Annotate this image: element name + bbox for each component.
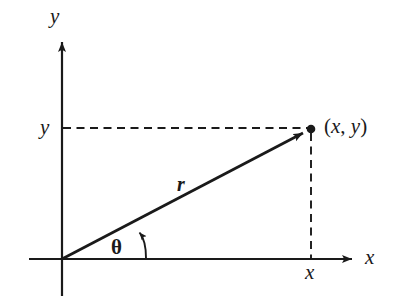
polar-coordinates-figure: y x y x r θ (x, y) <box>0 0 395 305</box>
theta-angle-label: θ <box>111 237 122 258</box>
point-separator: , <box>340 114 351 138</box>
diagram-canvas <box>0 0 395 305</box>
radius-label: r <box>177 174 185 194</box>
point-close-paren: ) <box>360 114 367 138</box>
x-coordinate-tick-label: x <box>305 262 314 283</box>
point-coordinates-label: (x, y) <box>324 116 367 137</box>
point-marker-dot <box>307 125 316 134</box>
radius-vector-line <box>62 133 303 259</box>
point-y-symbol: y <box>351 114 360 138</box>
x-axis-label: x <box>365 247 374 268</box>
theta-arc <box>140 233 147 259</box>
point-open-paren: ( <box>324 114 331 138</box>
point-x-symbol: x <box>331 114 340 138</box>
y-axis-label: y <box>50 6 59 27</box>
y-coordinate-tick-label: y <box>40 117 49 138</box>
